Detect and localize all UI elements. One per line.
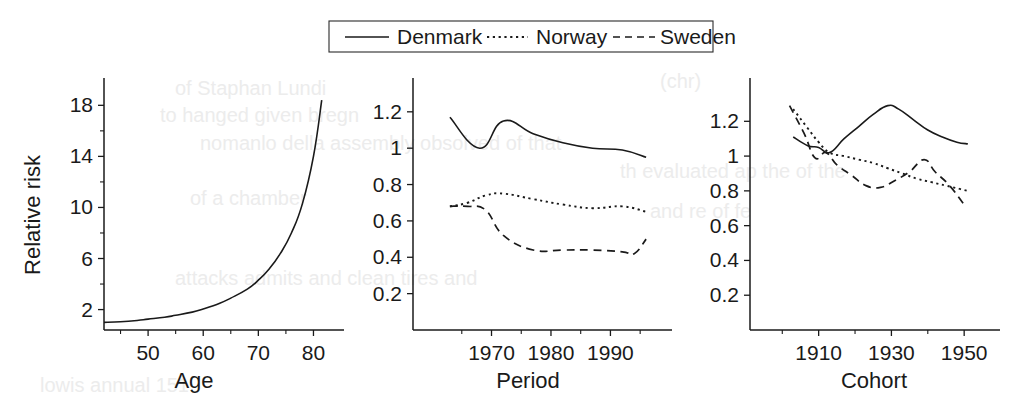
x-axis-tick-label: 1950 — [941, 341, 988, 364]
y-axis-tick-label: 0.4 — [373, 245, 403, 268]
panel-cohort-axes — [744, 78, 1000, 336]
bleedthrough-text: of Staphan Lundi — [175, 77, 326, 99]
y-axis-tick-label: 14 — [70, 144, 94, 167]
bleedthrough-text: lowis annual 151 — [40, 374, 189, 396]
series-line-denmark — [793, 105, 968, 153]
y-axis-tick-label: 0.4 — [710, 248, 740, 271]
bleedthrough-text: attacks admits and clean tires and — [175, 267, 477, 289]
panel-age-x-axis-label: Age — [174, 368, 213, 393]
legend-label-sweden: Sweden — [660, 25, 736, 48]
y-axis-tick-label: 0.2 — [373, 282, 402, 305]
y-axis-tick-label: 1 — [390, 136, 402, 159]
bleedthrough-text: nomanlo della assembly obsolved of that — [200, 132, 562, 154]
panel-age-y-axis-label: Relative risk — [20, 154, 45, 275]
bleedthrough-text: of a chamber — [190, 187, 307, 209]
series-line-sweden — [790, 106, 965, 205]
x-axis-tick-label: 80 — [302, 341, 325, 364]
y-axis-tick-label: 1 — [727, 144, 739, 167]
three-panel-relative-risk-figure: (chr)of Staphan Lundito hanged given bre… — [0, 0, 1018, 400]
x-axis-tick-label: 1990 — [587, 341, 634, 364]
y-axis-tick-label: 0.6 — [710, 214, 739, 237]
y-axis-tick-label: 6 — [81, 247, 93, 270]
legend-label-denmark: Denmark — [397, 25, 483, 48]
x-axis-tick-label: 70 — [247, 341, 270, 364]
x-axis-tick-label: 1910 — [795, 341, 842, 364]
y-axis-tick-label: 0.2 — [710, 283, 739, 306]
x-axis-tick-label: 1970 — [468, 341, 515, 364]
legend: Denmark Norway Sweden — [329, 21, 736, 52]
panel-cohort-series — [790, 105, 968, 205]
y-axis-tick-label: 2 — [81, 298, 93, 321]
y-axis-tick-label: 1.2 — [710, 109, 739, 132]
x-axis-tick-label: 1930 — [868, 341, 915, 364]
panel-cohort-tick-labels: 0.20.40.60.811.2191019301950 — [710, 109, 988, 364]
y-axis-tick-label: 0.8 — [710, 179, 739, 202]
legend-label-norway: Norway — [536, 25, 608, 48]
y-axis-tick-label: 10 — [70, 195, 93, 218]
y-axis-tick-label: 0.6 — [373, 209, 402, 232]
y-axis-tick-label: 1.2 — [373, 100, 402, 123]
x-axis-tick-label: 60 — [192, 341, 215, 364]
panel-period-x-axis-label: Period — [496, 368, 560, 393]
series-line-sweden — [450, 206, 646, 255]
panel-cohort: 0.20.40.60.811.2191019301950 Cohort — [710, 78, 1000, 393]
bleedthrough-text: to hanged given bregn — [160, 104, 359, 126]
x-axis-tick-label: 50 — [136, 341, 159, 364]
y-axis-tick-label: 18 — [70, 93, 93, 116]
y-axis-tick-label: 0.8 — [373, 173, 402, 196]
panel-period: 0.20.40.60.811.2197019801990 Period — [373, 78, 672, 393]
bleedthrough-text: (chr) — [660, 70, 701, 92]
x-axis-tick-label: 1980 — [528, 341, 575, 364]
panel-cohort-x-axis-label: Cohort — [841, 368, 907, 393]
series-line-norway — [450, 193, 646, 212]
